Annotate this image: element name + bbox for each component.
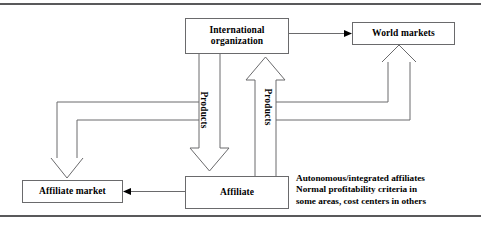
org-to-world-arrowhead xyxy=(344,30,352,37)
affiliate-market-inflow-arrowhead xyxy=(51,158,83,178)
products-down-branch-2 xyxy=(77,120,199,158)
world-markets-inflow-arrowhead xyxy=(382,45,416,62)
node-affiliate[interactable]: Affiliate xyxy=(185,176,289,209)
node-affiliate-market[interactable]: Affiliate market xyxy=(22,180,123,203)
node-international-organization-line2: organization xyxy=(211,36,263,46)
node-international-organization-line1: International xyxy=(209,25,264,35)
node-international-organization[interactable]: International organization xyxy=(185,18,289,54)
figure-canvas: International organization World markets… xyxy=(0,0,481,225)
products-down-arrow-shape xyxy=(190,54,229,171)
node-affiliate-market-label: Affiliate market xyxy=(39,186,106,198)
annotation-note-line2: Normal profitability criteria in xyxy=(296,184,478,195)
node-international-organization-label: International organization xyxy=(209,25,264,48)
products-down-branch-1 xyxy=(57,102,199,158)
affiliate-to-market-arrowhead xyxy=(123,188,131,195)
annotation-note: Autonomous/integrated affiliates Normal … xyxy=(296,173,478,207)
edge-label-products-up: Products xyxy=(263,85,273,129)
node-world-markets[interactable]: World markets xyxy=(352,22,455,45)
products-up-branch-2 xyxy=(276,62,410,120)
annotation-note-line3: some areas, cost centers in others xyxy=(296,196,478,207)
annotation-note-line1: Autonomous/integrated affiliates xyxy=(296,173,478,184)
node-affiliate-label: Affiliate xyxy=(220,187,254,199)
edge-label-products-down: Products xyxy=(199,88,209,132)
node-world-markets-label: World markets xyxy=(372,28,435,40)
products-up-branch-1 xyxy=(276,62,388,102)
